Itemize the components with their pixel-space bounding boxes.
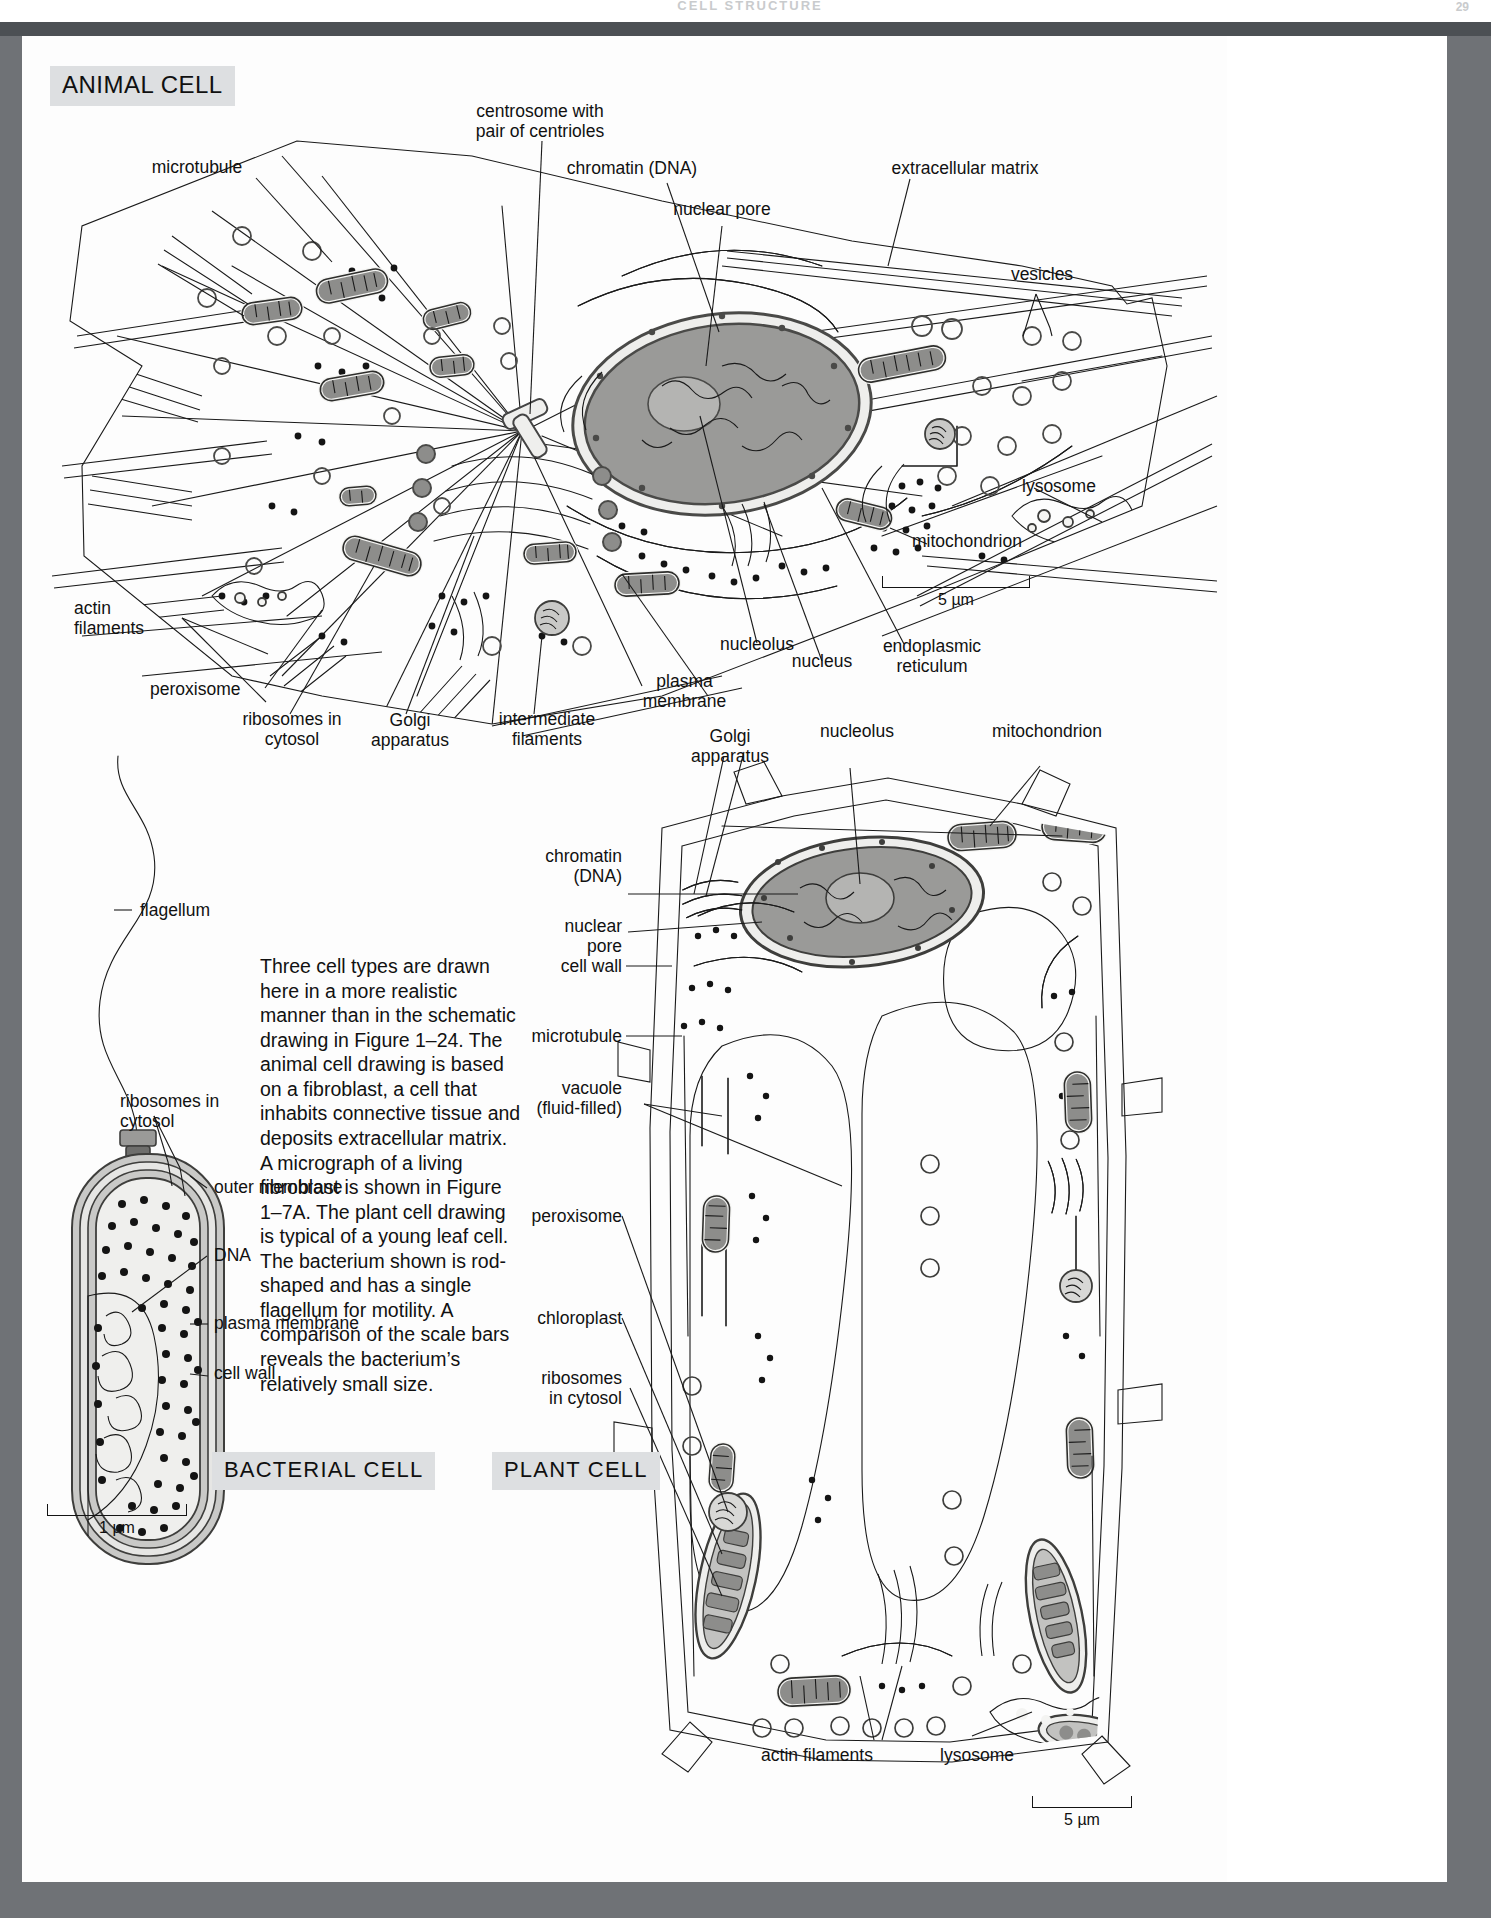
animal-label-nucleolus: nucleolus [677,634,837,654]
animal-label-centrosome: centrosome with pair of centrioles [420,101,660,142]
animal-label-lysosome: lysosome [1022,476,1162,496]
plant-scale-caption: 5 µm [1032,1811,1132,1829]
animal-nucleus [560,294,885,534]
plant-mitochondria [702,813,1107,1707]
animal-scale-caption: 5 µm [882,591,1030,609]
figure-artwork [22,36,1227,1882]
animal-label-extracellular-matrix: extracellular matrix [822,158,1108,178]
plant-cell-tag: PLANT CELL [492,1452,660,1490]
animal-label-mitochondrion: mitochondrion [912,531,1092,551]
figure-caption: Three cell types are drawn here in a mor… [260,954,522,1396]
running-head: CELL STRUCTURE [400,0,1100,14]
figure-plate: ANIMAL CELL BACTERIAL CELL PLANT CELL mi… [22,36,1227,1882]
plant-lysosome [990,1697,1119,1746]
animal-scale-rule [882,576,1030,588]
bacterial-cell-tag: BACTERIAL CELL [212,1452,435,1490]
bacterial-scale-bar: 1 µm [47,1504,187,1537]
plant-chloroplasts [683,1488,1137,1764]
plant-label-lysosome: lysosome [912,1745,1042,1765]
animal-label-nuclear-pore: nuclear pore [632,199,812,219]
plant-cell-art [614,762,1162,1784]
animal-cell-tag: ANIMAL CELL [50,66,235,106]
bacterial-cell-art [72,756,224,1564]
plant-nucleolus [826,873,894,923]
plant-scale-rule [1032,1796,1132,1808]
header-dark-band [0,22,1491,36]
plant-cell-wall [650,778,1126,1762]
figure-page: CELL STRUCTURE 29 [0,0,1491,1918]
actin-filaments-art [88,236,490,726]
centriole-pair [501,397,549,460]
plant-scale-bar: 5 µm [1032,1796,1132,1829]
bacterial-ribosomes [92,1196,202,1536]
plant-actin [878,1566,1002,1664]
animal-label-microtubule: microtubule [127,157,267,177]
plant-vacuoles [690,907,1076,1612]
plant-plasma-membrane [670,800,1108,1742]
animal-scale-bar: 5 µm [882,576,1030,609]
flagellum-art [99,756,155,1146]
page-folio: 29 [1456,0,1469,14]
figure-paper: ANIMAL CELL BACTERIAL CELL PLANT CELL mi… [22,36,1447,1882]
intermediate-filaments-art [452,372,904,660]
animal-label-actin-filaments: actin filaments [74,598,204,639]
plant-golgi [680,877,1085,1215]
plant-nucleus [734,826,990,979]
bacterial-dna-region [88,1293,159,1536]
animal-label-vesicles: vesicles [977,264,1107,284]
plant-label-golgi-apparatus: Golgi apparatus [660,726,800,767]
animal-nucleolus [648,377,720,431]
animal-golgi [409,445,621,551]
animal-label-ribosomes: ribosomes in cytosol [212,709,372,750]
plant-label-nucleolus: nucleolus [782,721,932,741]
plant-er [694,903,1078,1656]
animal-label-chromatin: chromatin (DNA) [522,158,742,178]
animal-label-intermediate-filaments: intermediate filaments [462,709,632,750]
plant-microtubules [684,826,1100,1676]
bacterial-scale-caption: 1 µm [47,1519,187,1537]
animal-label-peroxisome: peroxisome [150,679,310,699]
plant-label-actin-filaments: actin filaments [722,1745,912,1765]
plant-label-chromatin: chromatin (DNA) [458,846,622,887]
plant-peroxisomes [709,1270,1092,1531]
animal-mitochondria [241,267,948,597]
bacterial-label-ribosomes: ribosomes in cytosol [120,1091,270,1132]
animal-label-plasma-membrane: plasma membrane [602,671,767,712]
plant-vesicles [683,873,1091,1737]
bacterial-label-flagellum: flagellum [140,900,290,920]
plant-label-nuclear-pore: nuclear pore [458,916,622,957]
bacterial-scale-rule [47,1504,187,1516]
plant-label-mitochondrion: mitochondrion [947,721,1147,741]
plant-ribosomes [681,833,1085,1693]
